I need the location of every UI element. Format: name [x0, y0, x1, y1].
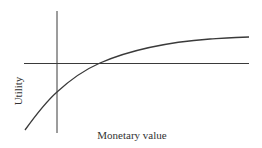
x-axis-label: Monetary value — [97, 129, 166, 141]
utility-diagram: Utility Monetary value — [0, 0, 262, 148]
y-axis-label: Utility — [12, 76, 24, 105]
utility-curve — [25, 37, 249, 130]
